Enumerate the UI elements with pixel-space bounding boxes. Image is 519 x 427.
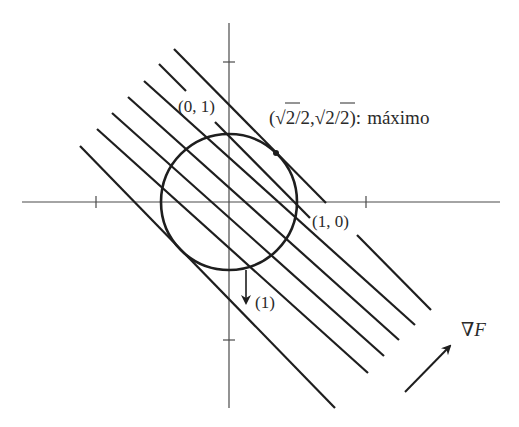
slash-two-comma: /2,	[295, 107, 315, 128]
label-gradient: ∇F	[461, 319, 486, 340]
sqrt-symbol-2: √	[315, 107, 326, 128]
maximum-point-dot	[273, 150, 279, 156]
label-point-top: (0, 1)	[178, 97, 215, 116]
sqrt-symbol: √	[275, 107, 286, 128]
maximo-word: máximo	[367, 107, 429, 128]
level-line-2c	[357, 235, 431, 310]
label-point-right: (1, 0)	[312, 212, 349, 231]
F-symbol: F	[473, 319, 486, 340]
level-line-2a	[159, 64, 186, 91]
radicand-2: 2	[325, 107, 335, 128]
label-arrow-one: (1)	[255, 293, 275, 312]
svg-text:(√2/2,√2/2):máximo: (√2/2,√2/2):máximo	[269, 107, 429, 129]
label-maximum: (√2/2,√2/2):máximo	[269, 103, 429, 129]
radicand: 2	[286, 107, 296, 128]
gradient-arrow-icon	[405, 346, 450, 392]
level-curves-diagram: (0, 1) (1, 0) (1) (√2/2,√2/2):máximo ∇F	[0, 0, 519, 427]
slash-two-close: /2):	[335, 107, 361, 129]
level-line-6	[97, 129, 368, 373]
level-lines	[80, 49, 431, 408]
nabla-symbol: ∇	[461, 319, 474, 340]
